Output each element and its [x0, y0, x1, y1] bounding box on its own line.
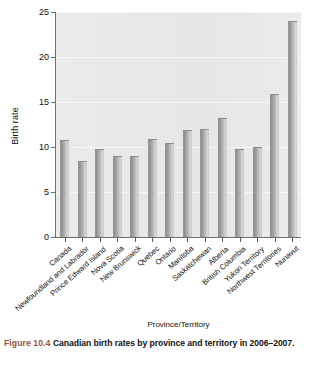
bar — [270, 94, 279, 237]
bar — [200, 129, 209, 237]
bar-series — [56, 12, 301, 237]
figure-caption: Figure 10.4 Canadian birth rates by prov… — [4, 338, 304, 350]
x-axis-tick-mark — [152, 237, 153, 242]
bar — [78, 161, 87, 238]
bar — [148, 139, 157, 237]
x-axis-tick-mark — [170, 237, 171, 242]
x-axis-tick-mark — [65, 237, 66, 242]
bar — [288, 21, 297, 237]
x-axis-tick-mark — [82, 237, 83, 242]
bar — [60, 140, 69, 237]
y-axis-tick-label: 25 — [39, 7, 49, 17]
y-axis-tick-label: 20 — [39, 52, 49, 62]
x-axis-tick-mark — [292, 237, 293, 242]
x-axis-tick-mark — [100, 237, 101, 242]
x-axis-tick-mark — [187, 237, 188, 242]
y-axis-tick: 25 — [18, 7, 56, 17]
y-axis-tick: 20 — [18, 52, 56, 62]
bar — [235, 149, 244, 237]
y-axis-tick-label: 10 — [39, 142, 49, 152]
x-axis-title: Province/Territory — [56, 320, 301, 329]
bar — [95, 149, 104, 237]
bar — [253, 147, 262, 237]
x-axis-tick-mark — [275, 237, 276, 242]
y-axis-tick: 5 — [18, 187, 56, 197]
x-axis-tick-mark — [135, 237, 136, 242]
x-axis-tick-mark — [205, 237, 206, 242]
y-axis-tick: 15 — [18, 97, 56, 107]
bar — [113, 156, 122, 237]
figure-birth-rate-chart: Birth rate 0510152025 CanadaNewfoundland… — [0, 0, 310, 367]
x-axis-ticks — [56, 237, 301, 242]
bar — [130, 156, 139, 237]
y-axis-tick-label: 0 — [44, 232, 49, 242]
bar — [183, 130, 192, 237]
x-axis-tick-mark — [222, 237, 223, 242]
x-axis-tick-mark — [240, 237, 241, 242]
y-axis-tick-label: 5 — [44, 187, 49, 197]
figure-caption-text: Canadian birth rates by province and ter… — [53, 338, 295, 348]
x-axis-tick-mark — [117, 237, 118, 242]
y-axis-tick: 0 — [18, 232, 56, 242]
bar — [218, 118, 227, 237]
x-axis-tick-mark — [257, 237, 258, 242]
bar — [165, 143, 174, 238]
figure-number: Figure 10.4 — [4, 338, 50, 348]
y-axis-tick-label: 15 — [39, 97, 49, 107]
y-axis-tick: 10 — [18, 142, 56, 152]
